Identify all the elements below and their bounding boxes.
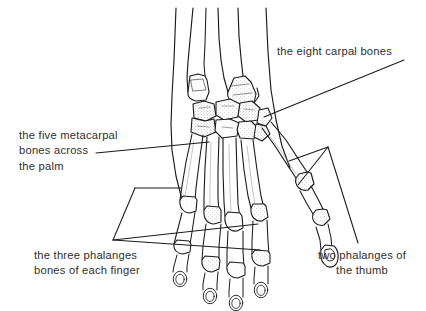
phalanges-middle-finger: [227, 231, 245, 311]
phalanges-little-finger: [173, 212, 195, 287]
label-the-five-metacarpal-bones: the five metacarpal bones across the pal…: [19, 128, 118, 174]
label-the-eight-carpal-bones: the eight carpal bones: [277, 44, 392, 59]
label-two-phalanges-of-the-thumb: two phalanges of the thumb: [306, 248, 418, 279]
phalanges-ring-finger: [202, 224, 221, 304]
phalanges-index-finger: [252, 220, 270, 298]
figure-hand-bones: the eight carpal bones the five metacarp…: [0, 0, 426, 311]
forearm-bones: [187, 8, 259, 105]
leader-carpal-bones: [264, 60, 404, 117]
label-the-three-phalanges-bones: the three phalanges bones of each finger: [34, 248, 140, 279]
